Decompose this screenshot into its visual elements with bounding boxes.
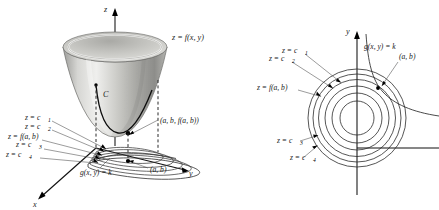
right-level-sub-3: 3 bbox=[299, 140, 303, 146]
constraint-label-left: g(x, y) = k bbox=[80, 168, 112, 177]
svg-text:z = c: z = c bbox=[24, 113, 41, 122]
svg-text:z = f(a, b): z = f(a, b) bbox=[256, 83, 288, 92]
level-sub-4: 4 bbox=[29, 154, 32, 160]
math-figure-svg: z y x z = f(x, y) C (a, b, f(a, b)) (a, … bbox=[0, 0, 439, 210]
level-label-4: z = c 4 bbox=[5, 150, 32, 160]
level-sub-1: 2 bbox=[48, 126, 51, 132]
x-axis-label: x bbox=[32, 200, 37, 209]
right-level-sub-0: 1 bbox=[305, 50, 308, 56]
paraboloid-surface bbox=[63, 32, 167, 137]
surface-equation-label: z = f(x, y) bbox=[171, 33, 204, 42]
curve-c-label: C bbox=[103, 90, 109, 99]
level-label-1: z = c 2 bbox=[24, 122, 51, 132]
svg-text:z = c: z = c bbox=[289, 153, 306, 162]
right-level-label-1: z = c 2 bbox=[268, 54, 295, 64]
right-axes bbox=[354, 31, 439, 195]
right-y-axis-label: y bbox=[345, 27, 350, 36]
base-point-label: (a, b) bbox=[150, 165, 167, 174]
right-point-label: (a, b) bbox=[399, 52, 416, 61]
svg-text:z = c: z = c bbox=[5, 150, 22, 159]
svg-text:z = c: z = c bbox=[268, 54, 285, 63]
right-level-sub-4: 4 bbox=[313, 157, 316, 163]
z-axis-label: z bbox=[103, 5, 108, 14]
tangency-point bbox=[376, 86, 380, 90]
constraint-label-right: g(x, y) = k bbox=[364, 42, 396, 51]
svg-text:z = c: z = c bbox=[15, 140, 32, 149]
y-axis-label: y bbox=[188, 169, 193, 178]
level-label-3: z = c 3 bbox=[15, 140, 42, 150]
left-panel: z y x z = f(x, y) C (a, b, f(a, b)) (a, … bbox=[5, 5, 204, 209]
right-level-sub-1: 2 bbox=[292, 58, 295, 64]
svg-text:z = c: z = c bbox=[276, 136, 293, 145]
right-level-label-4: z = c 4 bbox=[289, 153, 316, 163]
svg-text:z = c: z = c bbox=[24, 122, 41, 131]
right-level-label-2: z = f(a, b) bbox=[256, 83, 288, 92]
surface-point-label: (a, b, f(a, b)) bbox=[160, 116, 199, 125]
figure-container: z y x z = f(x, y) C (a, b, f(a, b)) (a, … bbox=[0, 0, 439, 210]
right-panel: y g(x, y) = k (a, b) z = c 1 z = c 2 z =… bbox=[256, 27, 439, 195]
level-sub-0: 1 bbox=[48, 117, 51, 123]
right-level-label-0: z = c 1 bbox=[281, 46, 308, 56]
right-level-label-3: z = c 3 bbox=[276, 136, 303, 146]
level-sub-3: 3 bbox=[38, 144, 42, 150]
